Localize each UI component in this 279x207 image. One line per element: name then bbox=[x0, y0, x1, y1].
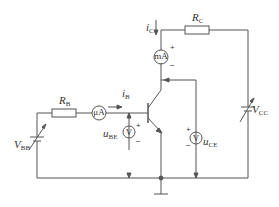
label-ib: iB bbox=[122, 88, 130, 101]
label-vcc: VCC bbox=[252, 104, 268, 117]
label-rc: RC bbox=[192, 12, 203, 25]
minus-sign-ma: − bbox=[170, 62, 175, 70]
minus-sign-vbe: − bbox=[136, 138, 141, 146]
plus-sign-vbe: + bbox=[136, 122, 141, 130]
label-rb: RB bbox=[59, 95, 70, 108]
resistor-rb bbox=[52, 109, 76, 117]
microammeter-label: μA bbox=[92, 108, 106, 117]
label-ic: iC bbox=[146, 22, 154, 35]
label-vbb: VBB bbox=[14, 139, 30, 152]
label-ube: uBE bbox=[103, 128, 117, 141]
plus-sign-ma: + bbox=[170, 44, 175, 52]
voltmeter-ce-label: V bbox=[190, 134, 202, 143]
label-uce: uCE bbox=[203, 136, 217, 149]
plus-sign-vce: + bbox=[186, 126, 191, 134]
circuit-schematic bbox=[0, 0, 279, 207]
resistor-rc bbox=[185, 26, 209, 34]
milliammeter-label: mA bbox=[154, 52, 168, 61]
voltmeter-be-label: V bbox=[123, 128, 135, 137]
minus-sign-vce: − bbox=[186, 142, 191, 150]
